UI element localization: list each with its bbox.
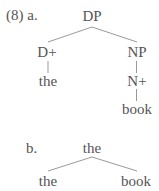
edge-dp-dplus: [48, 27, 92, 42]
node-the-leaf: the: [39, 74, 57, 89]
example-label-a: (8) a.: [6, 8, 38, 23]
node-b-left-the: the: [39, 174, 57, 189]
node-d-plus: D+: [37, 45, 56, 60]
node-np: NP: [127, 45, 146, 60]
syntax-tree-figure: (8) a. b. DP D+ the NP N+ book the the b…: [0, 0, 159, 191]
example-label-b: b.: [26, 141, 37, 156]
edge-the-book: [92, 157, 137, 171]
node-b-right-book: book: [121, 174, 151, 189]
edge-the-the: [48, 157, 92, 171]
node-b-root-the: the: [83, 141, 101, 156]
node-dp: DP: [82, 9, 101, 24]
node-book-leaf: book: [122, 102, 152, 117]
edge-dp-np: [92, 27, 137, 42]
node-n-plus: N+: [127, 74, 146, 89]
tree-edges: [0, 0, 159, 191]
